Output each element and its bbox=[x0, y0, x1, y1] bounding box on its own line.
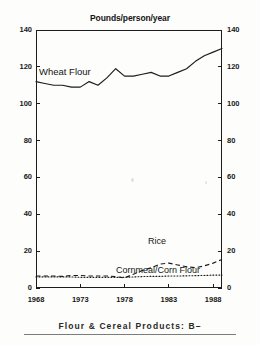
y-axis-tick-label-left: 60 bbox=[24, 173, 32, 181]
scan-speckle bbox=[205, 181, 207, 184]
y-axis-tick-label-left: 40 bbox=[24, 210, 32, 218]
x-axis-tick-label: 1973 bbox=[72, 296, 89, 304]
caption-divider bbox=[24, 334, 236, 335]
y-axis-tick-label-right: 0 bbox=[227, 284, 231, 292]
x-axis-tick-label: 1978 bbox=[116, 296, 133, 304]
y-axis-tick-label-right: 20 bbox=[227, 247, 235, 255]
series-label-wheat-flour: Wheat Flour bbox=[39, 66, 91, 77]
figure: Pounds/person/year 002020404060608080100… bbox=[0, 0, 260, 345]
y-axis-tick-label-right: 140 bbox=[227, 26, 240, 34]
y-axis-tick-label-left: 100 bbox=[19, 100, 32, 108]
x-axis-tick-label: 1983 bbox=[161, 296, 178, 304]
series-label-rice: Rice bbox=[148, 236, 166, 246]
y-axis-tick-label-right: 120 bbox=[227, 63, 240, 71]
x-axis-tick-label: 1968 bbox=[28, 296, 45, 304]
y-axis-tick-label-left: 0 bbox=[28, 284, 32, 292]
y-axis-tick-label-left: 140 bbox=[19, 26, 32, 34]
figure-caption: Flour & Cereal Products: B– bbox=[0, 321, 260, 331]
series-group bbox=[36, 48, 222, 277]
scan-speckle bbox=[131, 178, 134, 182]
y-axis-tick-label-left: 20 bbox=[24, 247, 32, 255]
y-axis-tick-label-right: 100 bbox=[227, 100, 240, 108]
y-axis-tick-label-right: 40 bbox=[227, 210, 235, 218]
y-axis-tick-label-left: 120 bbox=[19, 63, 32, 71]
y-axis-tick-label-left: 80 bbox=[24, 137, 32, 145]
series-label-cornmeal-corn-flour: Cornmeal/Corn Flour bbox=[116, 265, 200, 275]
chart-title: Pounds/person/year bbox=[0, 13, 260, 23]
y-axis-tick-label-right: 80 bbox=[227, 137, 235, 145]
y-axis-tick-label-right: 60 bbox=[227, 173, 235, 181]
x-axis-tick-label: 1988 bbox=[205, 296, 222, 304]
